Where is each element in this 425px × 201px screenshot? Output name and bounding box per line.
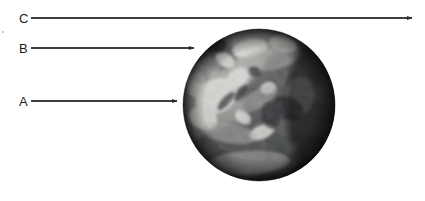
earth-globe (183, 24, 374, 186)
callout-b: B (19, 41, 194, 56)
globe-surface-texture (183, 24, 374, 186)
label-b-text: B (19, 41, 28, 56)
callout-c: C (19, 11, 412, 26)
label-c-text: C (19, 11, 29, 26)
scan-speck-artifact (2, 31, 4, 33)
diagram-canvas: C B A (0, 0, 425, 201)
globe-night-side (286, 27, 374, 183)
callout-a: A (19, 94, 177, 109)
label-a-text: A (19, 94, 28, 109)
earth-diagram-figure: C B A (0, 0, 425, 201)
